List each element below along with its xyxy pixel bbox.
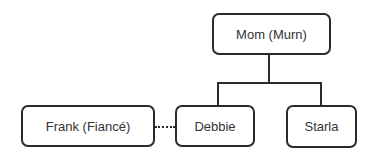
connector-to-debbie — [217, 82, 219, 106]
node-mom-label: Mom (Murn) — [236, 27, 307, 42]
connector-frank-debbie-dotted — [155, 126, 175, 128]
node-debbie-label: Debbie — [194, 119, 235, 134]
connector-to-starla — [320, 82, 322, 106]
node-frank: Frank (Fiancé) — [21, 105, 155, 147]
connector-children-bar — [217, 82, 322, 84]
node-frank-label: Frank (Fiancé) — [46, 119, 131, 134]
node-starla-label: Starla — [305, 119, 339, 134]
node-starla: Starla — [286, 105, 357, 148]
node-mom: Mom (Murn) — [212, 13, 331, 55]
family-tree-diagram: Mom (Murn) Frank (Fiancé) Debbie Starla — [0, 0, 374, 163]
node-debbie: Debbie — [175, 105, 255, 147]
connector-mom-trunk — [268, 55, 270, 84]
